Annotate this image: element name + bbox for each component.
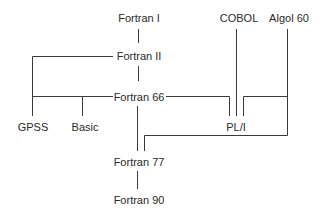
node-fortran-90: Fortran 90 <box>114 195 165 206</box>
node-pli: PL/I <box>226 122 246 133</box>
node-fortran-1: Fortran I <box>118 13 160 24</box>
connector-lines <box>0 0 322 215</box>
node-algol-60: Algol 60 <box>269 13 309 24</box>
node-fortran-77: Fortran 77 <box>114 157 165 168</box>
language-genealogy-diagram: Fortran I Fortran II Fortran 66 Fortran … <box>0 0 322 215</box>
node-gpss: GPSS <box>18 122 49 133</box>
node-fortran-66: Fortran 66 <box>114 92 165 103</box>
node-fortran-2: Fortran II <box>117 51 162 62</box>
node-basic: Basic <box>72 122 99 133</box>
node-cobol: COBOL <box>220 13 259 24</box>
